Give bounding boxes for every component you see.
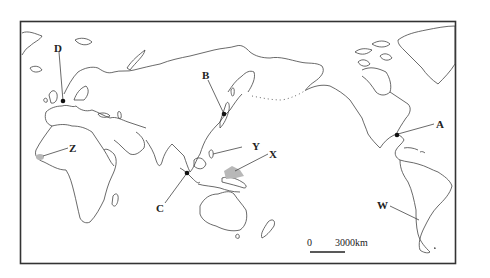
label-z: Z bbox=[69, 142, 76, 154]
map-frame bbox=[21, 22, 456, 264]
label-y: Y bbox=[252, 140, 260, 152]
scale-start-label: 0 bbox=[307, 237, 312, 248]
world-map: A B C D W X Y Z 0 3000km bbox=[0, 0, 490, 278]
marker-d-dot bbox=[61, 99, 66, 104]
label-w: W bbox=[377, 199, 388, 211]
marker-c-dot bbox=[185, 171, 190, 176]
marker-a-dot bbox=[395, 133, 400, 138]
label-b: B bbox=[202, 69, 210, 81]
leader-lines bbox=[43, 52, 434, 220]
scale-end-label: 3000km bbox=[335, 237, 368, 248]
label-c: C bbox=[156, 202, 164, 214]
marker-b-dot bbox=[222, 112, 227, 117]
scale-bar: 0 3000km bbox=[307, 237, 368, 252]
coastlines bbox=[22, 26, 455, 253]
label-a: A bbox=[436, 118, 444, 130]
label-x: X bbox=[269, 148, 277, 160]
region-z-shaded bbox=[36, 154, 44, 160]
label-d: D bbox=[54, 42, 62, 54]
